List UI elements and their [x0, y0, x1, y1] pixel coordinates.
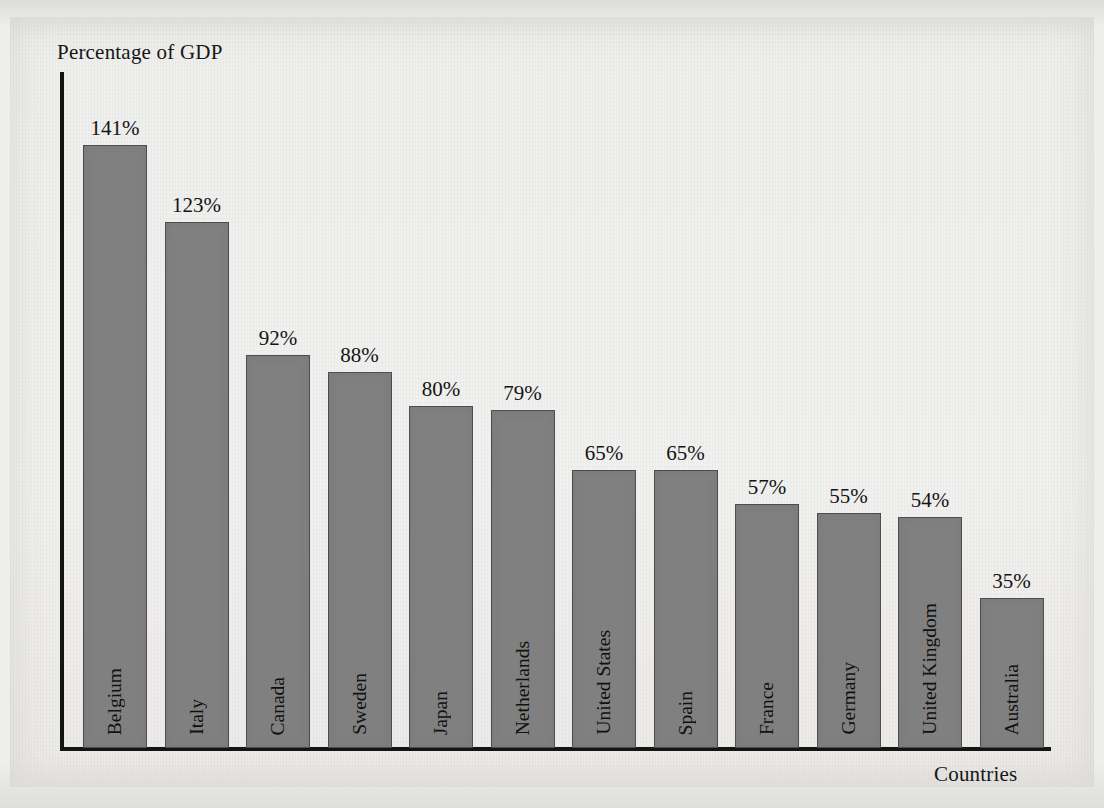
bar[interactable]: Italy	[165, 222, 229, 748]
bar-group: Japan80%	[409, 406, 473, 748]
bar-group: Italy123%	[165, 222, 229, 748]
bar-group: Germany55%	[817, 513, 881, 748]
bar-category-label: Netherlands	[492, 641, 554, 735]
bar-value-label: 54%	[876, 488, 984, 513]
bar-category-label: United Kingdom	[899, 603, 961, 735]
plot-area: Belgium141%Italy123%Canada92%Sweden88%Ja…	[0, 0, 1104, 808]
bar-group: Belgium141%	[83, 145, 147, 748]
bar[interactable]: Japan	[409, 406, 473, 748]
bar[interactable]: Sweden	[328, 372, 392, 748]
bar[interactable]: Belgium	[83, 145, 147, 748]
bar-category-label: Belgium	[84, 668, 146, 735]
bar-value-label: 88%	[306, 343, 414, 368]
bar-category-label: Italy	[166, 699, 228, 735]
bar-category-label: Japan	[410, 691, 472, 735]
bar-category-label: Spain	[655, 691, 717, 735]
bar[interactable]: Netherlands	[491, 410, 555, 748]
scanned-chart-page: Percentage of GDP Belgium141%Italy123%Ca…	[0, 0, 1104, 808]
bar-category-label: Australia	[981, 664, 1043, 735]
bar-category-label: France	[736, 682, 798, 735]
bar-group: United States65%	[572, 470, 636, 748]
bar-group: Australia35%	[980, 598, 1044, 748]
bar-group: Spain65%	[654, 470, 718, 748]
bar-group: Canada92%	[246, 355, 310, 748]
bar[interactable]: Australia	[980, 598, 1044, 748]
bar-group: France57%	[735, 504, 799, 748]
bar-value-label: 79%	[469, 381, 577, 406]
bar[interactable]: United States	[572, 470, 636, 748]
bar[interactable]: Spain	[654, 470, 718, 748]
bar[interactable]: Germany	[817, 513, 881, 748]
bar-group: Netherlands79%	[491, 410, 555, 748]
bar-chart: Percentage of GDP Belgium141%Italy123%Ca…	[0, 0, 1104, 808]
bar[interactable]: United Kingdom	[898, 517, 962, 748]
bar-group: Sweden88%	[328, 372, 392, 748]
x-axis-title: Countries	[934, 762, 1017, 787]
bar[interactable]: France	[735, 504, 799, 748]
bar-group: United Kingdom54%	[898, 517, 962, 748]
bar-value-label: 141%	[61, 116, 169, 141]
bar-value-label: 35%	[958, 569, 1066, 594]
bar-value-label: 123%	[143, 193, 251, 218]
bar-category-label: United States	[573, 630, 635, 735]
bar-value-label: 65%	[632, 441, 740, 466]
bar-category-label: Canada	[247, 677, 309, 735]
bar-category-label: Sweden	[329, 673, 391, 735]
bar-category-label: Germany	[818, 662, 880, 735]
bar[interactable]: Canada	[246, 355, 310, 748]
